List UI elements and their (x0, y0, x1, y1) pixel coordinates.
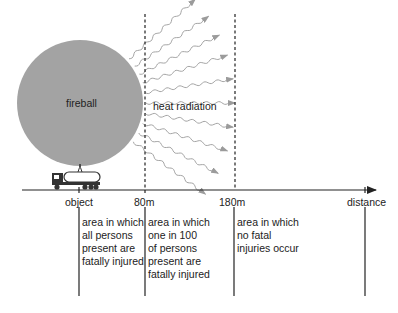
axis-label-object: object (65, 196, 93, 209)
axis-label-distance: distance (347, 196, 386, 209)
heat-ray (133, 142, 205, 194)
zone-no-fatal-description: area in which no fatal injuries occur (237, 216, 299, 255)
heat-ray (145, 113, 233, 127)
zone-one-in-100-description: area in which one in 100 of persons pres… (148, 216, 210, 281)
heat-radiation-label: heat radiation (153, 100, 217, 113)
heat-ray (143, 55, 228, 83)
heat-ray (143, 123, 228, 150)
heat-ray (145, 79, 233, 94)
axis-label-80m: 80m (134, 196, 154, 209)
heat-ray (135, 16, 209, 66)
heat-ray (129, 0, 195, 59)
zone-all-fatal-description: area in which all persons present are fa… (82, 216, 144, 268)
fireball-label: fireball (66, 97, 97, 110)
axis-label-180m: 180m (219, 196, 245, 209)
tanker-truck-icon (52, 164, 100, 190)
